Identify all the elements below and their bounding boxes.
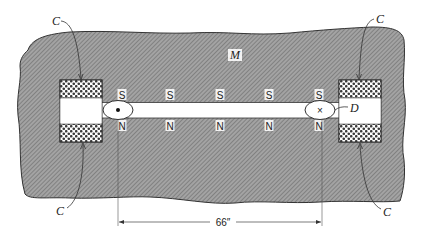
right-coil-top-winding xyxy=(339,80,381,98)
arrow-left-icon xyxy=(119,220,124,224)
detector-label: D xyxy=(349,101,359,115)
coil-label: C xyxy=(376,12,385,26)
dot-icon xyxy=(116,108,120,112)
dimension-label: 66″ xyxy=(216,217,231,228)
coil-label: C xyxy=(52,14,61,28)
pole-label-n: N xyxy=(216,121,223,132)
left-coil-top-winding xyxy=(60,80,102,98)
pole-label-n: N xyxy=(118,121,125,132)
pole-label-s: S xyxy=(266,90,273,101)
air-gap xyxy=(100,103,340,119)
coil-label: C xyxy=(383,205,392,219)
left-coil xyxy=(60,80,102,142)
material-label: M xyxy=(229,48,241,62)
arrow-right-icon xyxy=(316,220,321,224)
pole-label-n: N xyxy=(166,121,173,132)
left-coil-bottom-winding xyxy=(60,124,102,142)
pole-label-s: S xyxy=(167,90,174,101)
pole-label-s: S xyxy=(316,90,323,101)
coil-label: C xyxy=(56,204,65,218)
right-coil xyxy=(339,80,381,142)
magnet-diagram: × S S S S S N N N N N M D C C xyxy=(0,0,435,238)
pole-label-s: S xyxy=(119,90,126,101)
pole-label-n: N xyxy=(315,121,322,132)
cross-icon: × xyxy=(317,105,323,116)
pole-label-s: S xyxy=(217,90,224,101)
pole-label-n: N xyxy=(265,121,272,132)
right-coil-bottom-winding xyxy=(339,124,381,142)
